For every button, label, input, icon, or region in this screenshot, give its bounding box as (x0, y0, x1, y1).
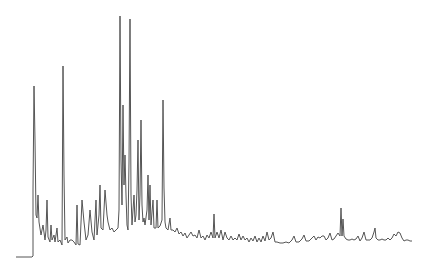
chromatogram-chart (0, 0, 432, 272)
chromatogram-trace (16, 16, 412, 257)
